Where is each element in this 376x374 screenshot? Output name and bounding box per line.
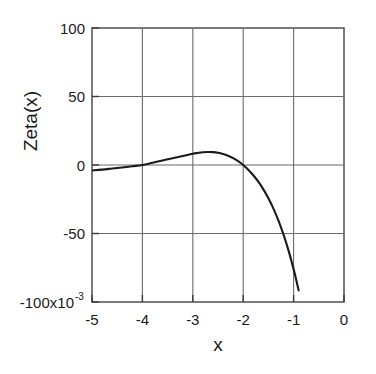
plot-area: 100 50 0 -50 -100x10 -3 -5 -4 -3 -2 -1 0 bbox=[0, 0, 376, 374]
ytick-label--100: -100x10 bbox=[20, 294, 74, 311]
xtick-label--5: -5 bbox=[85, 311, 98, 328]
ytick-label-100: 100 bbox=[60, 20, 85, 37]
x-axis-tick-labels: -5 -4 -3 -2 -1 0 bbox=[85, 311, 348, 328]
x-axis-title: x bbox=[92, 334, 344, 356]
chart-figure: 100 50 0 -50 -100x10 -3 -5 -4 -3 -2 -1 0… bbox=[0, 0, 376, 374]
ytick-label--100-exponent: -3 bbox=[75, 291, 84, 302]
xtick-label--3: -3 bbox=[186, 311, 199, 328]
xtick-label--2: -2 bbox=[237, 311, 250, 328]
ytick-label--50: -50 bbox=[63, 225, 85, 242]
ytick-label-0: 0 bbox=[77, 157, 85, 174]
xtick-label--4: -4 bbox=[136, 311, 149, 328]
xtick-label--1: -1 bbox=[287, 311, 300, 328]
ytick-label-50: 50 bbox=[68, 88, 85, 105]
xtick-label-0: 0 bbox=[340, 311, 348, 328]
y-axis-title: Zeta(x) bbox=[20, 66, 42, 176]
